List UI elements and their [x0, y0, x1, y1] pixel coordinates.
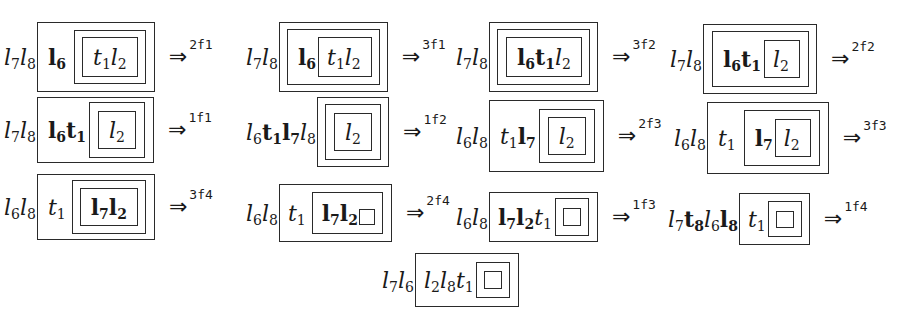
step-prefix: l7l6 — [382, 268, 414, 293]
italic-symbol: l2 — [784, 126, 800, 151]
empty-box — [359, 209, 375, 225]
box-content: l2 — [773, 47, 789, 72]
symbol-base: l — [670, 47, 677, 72]
box-content: t1l2 — [327, 45, 361, 70]
box-content: l6t1l2 — [287, 29, 380, 85]
bold-symbol: l6 — [517, 44, 535, 70]
bold-symbol: l7 — [91, 194, 109, 220]
derivation-step-7: l6l8t1l7l2⇒2f3 — [456, 100, 662, 172]
box-content: l6t1l2 — [723, 40, 800, 78]
italic-symbol: l2 — [424, 268, 440, 293]
box-content: l7l2 — [322, 200, 375, 226]
symbol-base: l — [262, 45, 269, 70]
arrow-rule-label: 1f4 — [844, 199, 867, 214]
double-right-arrow-icon: ⇒ — [618, 125, 636, 147]
double-right-arrow-icon: ⇒ — [843, 127, 861, 149]
symbol-base: l — [246, 120, 253, 145]
box-content: l7l2 — [91, 194, 127, 220]
nested-box-level-2: l2 — [764, 40, 800, 78]
double-right-arrow-icon: ⇒ — [612, 206, 630, 228]
symbol-base: l — [109, 194, 117, 220]
outer-box: l2 — [317, 97, 389, 167]
symbol-base: l — [345, 45, 352, 70]
outer-box: t1l7l2 — [707, 102, 829, 174]
bold-symbol: l7 — [322, 200, 340, 226]
box-content: l2 — [784, 126, 800, 151]
arrow-rule-label: 3f2 — [632, 37, 655, 52]
symbol-base: l — [109, 118, 116, 143]
symbol-base: l — [690, 126, 697, 151]
symbol-base: t — [718, 126, 727, 151]
italic-symbol: l8 — [20, 118, 36, 143]
implies-arrow: ⇒2f3 — [618, 125, 662, 147]
symbol-base: l — [440, 268, 447, 293]
symbol-base: l — [20, 118, 27, 143]
arrow-rule-label: 2f2 — [851, 39, 874, 54]
symbol-base: l — [340, 200, 348, 226]
implies-arrow: ⇒3f4 — [169, 196, 213, 218]
implies-arrow: ⇒2f4 — [406, 202, 450, 224]
italic-symbol: l2 — [773, 47, 789, 72]
double-right-arrow-icon: ⇒ — [824, 208, 842, 230]
bold-symbol: t1 — [535, 44, 555, 70]
nested-box-level-2: t1l2 — [82, 37, 138, 77]
symbol-base: l — [498, 204, 506, 230]
double-right-arrow-icon: ⇒ — [403, 121, 421, 143]
derivation-step-6: l6t1l7l8l2⇒1f2 — [246, 97, 447, 167]
nested-box-level-1 — [476, 262, 510, 298]
nested-box-level-1: l6t1l2 — [712, 31, 809, 87]
step-prefix: l7l8 — [4, 45, 36, 70]
derivation-step-12: l7t8l6l8t1⇒1f4 — [668, 193, 868, 245]
italic-symbol: l7 — [382, 268, 398, 293]
arrow-rule-label: 3f3 — [863, 118, 886, 133]
arrow-rule-label: 3f4 — [189, 187, 212, 202]
symbol-base: t — [327, 45, 336, 70]
double-right-arrow-icon: ⇒ — [612, 46, 630, 68]
bold-symbol: l2 — [340, 200, 358, 226]
bold-symbol: l7 — [755, 125, 773, 151]
implies-arrow: ⇒1f3 — [612, 206, 656, 228]
italic-symbol: l2 — [559, 124, 575, 149]
bold-symbol: t1 — [66, 117, 86, 143]
box-content: l2 — [109, 118, 125, 143]
bold-symbol: t1 — [741, 46, 761, 72]
derivation-step-9: l6l8t1l7l2⇒3f4 — [4, 174, 213, 240]
italic-symbol: t1 — [288, 201, 306, 226]
step-prefix: l7t8l6l8 — [668, 206, 738, 232]
outer-box: l7l2t1 — [489, 192, 598, 242]
arrow-rule-label: 2f4 — [426, 193, 449, 208]
outer-box: t1l7l2 — [489, 100, 604, 172]
arrow-rule-label: 1f2 — [423, 112, 446, 127]
derivation-step-4: l7l8l6t1l2⇒2f2 — [670, 24, 875, 94]
symbol-base: t — [500, 124, 509, 149]
symbol-base: l — [686, 47, 693, 72]
derivation-step-3: l7l8l6t1l2⇒3f2 — [456, 22, 656, 92]
box-content: l6t1l2 — [506, 37, 582, 77]
box-content: t1l2 — [82, 37, 138, 77]
derivation-step-2: l7l8l6t1l2⇒3f1 — [246, 22, 446, 92]
box-content: t1l7l2 — [288, 192, 383, 234]
box-content: t1l2 — [93, 45, 127, 70]
symbol-base: l — [723, 46, 731, 72]
implies-arrow: ⇒3f3 — [843, 127, 887, 149]
italic-symbol: l2 — [555, 45, 571, 70]
step-prefix: l6t1l7l8 — [246, 119, 316, 145]
nested-box-level-1: l2 — [89, 102, 145, 158]
italic-symbol: t1 — [500, 124, 518, 149]
symbol-base: t — [684, 206, 694, 232]
symbol-base: t — [741, 46, 751, 72]
italic-symbol: l2 — [111, 45, 127, 70]
symbol-base: l — [720, 206, 728, 232]
symbol-base: l — [398, 268, 405, 293]
symbol-base: t — [534, 205, 543, 230]
step-prefix: l6l8 — [456, 124, 488, 149]
outer-box: t1l7l2 — [37, 174, 155, 240]
derivation-step-13: l7l6l2l8t1 — [382, 253, 519, 307]
box-content: l2 — [325, 104, 381, 160]
double-right-arrow-icon: ⇒ — [169, 196, 187, 218]
derivation-step-10: l6l8t1l7l2⇒2f4 — [246, 184, 450, 242]
box-content: l2 — [548, 117, 586, 155]
nested-box-level-1: t1l2 — [74, 30, 146, 84]
symbol-base: l — [674, 126, 681, 151]
italic-symbol: l7 — [668, 207, 684, 232]
